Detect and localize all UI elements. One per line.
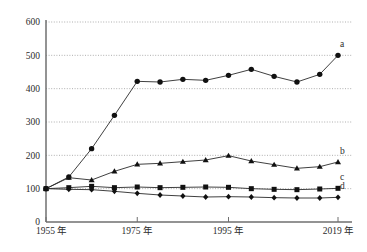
- y-axis-tick-label-500: 500: [26, 51, 41, 61]
- marker-d-4: [135, 190, 140, 196]
- marker-c-4: [135, 185, 140, 190]
- y-axis-tick-label-400: 400: [26, 84, 41, 94]
- marker-a-2: [89, 146, 94, 151]
- series-label-b: b: [340, 146, 345, 156]
- marker-c-8: [226, 185, 231, 190]
- marker-d-5: [157, 192, 162, 198]
- marker-c-5: [158, 185, 163, 190]
- marker-a-13: [335, 53, 340, 58]
- marker-c-11: [294, 187, 299, 192]
- marker-d-12: [317, 195, 322, 201]
- series-label-a: a: [340, 39, 345, 49]
- marker-a-11: [294, 79, 299, 84]
- x-axis-tick-label-1975: 1975 年: [122, 225, 153, 236]
- marker-d-6: [180, 193, 185, 199]
- series-label-d: d: [340, 181, 345, 191]
- marker-d-7: [203, 194, 208, 200]
- x-axis-tick-label-2019: 2019 年: [323, 225, 354, 236]
- marker-a-5: [157, 79, 162, 84]
- marker-a-4: [135, 79, 140, 84]
- y-axis-tick-label-300: 300: [26, 117, 41, 127]
- marker-c-6: [180, 185, 185, 190]
- marker-c-7: [203, 185, 208, 190]
- chart-canvas: 01002003004005006001955 年1975 年1995 年201…: [0, 0, 367, 252]
- marker-a-3: [112, 113, 117, 118]
- marker-a-7: [203, 78, 208, 83]
- series-line-b: [46, 156, 338, 189]
- marker-a-6: [180, 77, 185, 82]
- marker-a-8: [226, 73, 231, 78]
- y-axis-tick-label-100: 100: [26, 184, 41, 194]
- marker-a-10: [271, 74, 276, 79]
- marker-d-8: [226, 194, 231, 200]
- marker-d-13: [335, 194, 340, 200]
- y-axis-tick-label-200: 200: [26, 151, 41, 161]
- marker-b-13: [335, 159, 341, 164]
- y-axis-tick-label-600: 600: [26, 17, 41, 27]
- line-chart: 01002003004005006001955 年1975 年1995 年201…: [0, 0, 367, 252]
- marker-d-9: [249, 194, 254, 200]
- marker-d-10: [272, 195, 277, 201]
- marker-c-12: [317, 187, 322, 192]
- marker-a-9: [249, 67, 254, 72]
- marker-d-11: [294, 195, 299, 201]
- x-axis-tick-label-1955: 1955 年: [36, 225, 67, 236]
- marker-a-12: [317, 72, 322, 77]
- x-axis-tick-label-1995: 1995 年: [213, 225, 244, 236]
- marker-c-9: [249, 186, 254, 191]
- marker-c-10: [272, 187, 277, 192]
